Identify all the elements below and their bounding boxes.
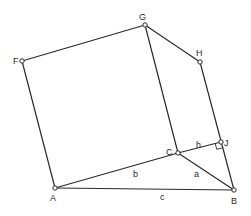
point-label-a: A <box>50 193 56 203</box>
point-a <box>53 186 57 190</box>
point-label-c: C <box>166 147 173 157</box>
point-g <box>143 23 147 27</box>
segment-ac <box>55 153 178 188</box>
point-h <box>198 60 202 64</box>
labels-group: ABCFGHJbach <box>13 12 237 206</box>
point-label-j: J <box>224 138 229 148</box>
point-f <box>20 59 24 63</box>
geometry-diagram: ABCFGHJbach <box>0 0 251 216</box>
point-label-f: F <box>13 56 19 66</box>
side-label-h: h <box>196 140 201 150</box>
point-b <box>232 188 236 192</box>
point-label-h: H <box>196 48 203 58</box>
side-label-b: b <box>133 169 138 179</box>
segment-ab <box>55 188 234 190</box>
segment-fg <box>22 25 145 61</box>
side-label-c: c <box>160 192 165 202</box>
point-j <box>219 140 223 144</box>
point-label-b: B <box>231 196 237 206</box>
segment-af <box>22 61 55 188</box>
point-c <box>176 151 180 155</box>
point-label-g: G <box>139 12 146 22</box>
diagram-svg: ABCFGHJbach <box>0 0 251 216</box>
side-label-a: a <box>194 169 199 179</box>
